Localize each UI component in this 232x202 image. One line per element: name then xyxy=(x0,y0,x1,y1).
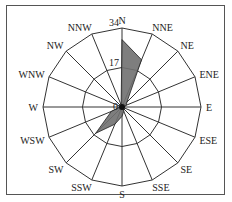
direction-label-sw: SW xyxy=(48,164,64,175)
center-dot xyxy=(119,104,125,110)
direction-label-s: S xyxy=(119,189,125,200)
direction-label-nw: NW xyxy=(47,40,64,51)
direction-label-w: W xyxy=(29,102,39,113)
direction-label-wnw: WNW xyxy=(19,69,46,80)
direction-label-ssw: SSW xyxy=(71,182,92,193)
direction-label-se: SE xyxy=(181,164,193,175)
direction-label-n: N xyxy=(118,15,125,26)
wind-rose-chart: 17340NNNENEENEEESESESSESSSWSWWSWWWNWNWNN… xyxy=(0,0,232,202)
direction-label-e: E xyxy=(206,102,212,113)
grid-spoke xyxy=(122,107,178,163)
direction-label-nnw: NNW xyxy=(68,22,92,33)
radial-tick-label: 17 xyxy=(109,57,119,68)
direction-label-nne: NNE xyxy=(152,22,173,33)
radial-tick-label: 0 xyxy=(113,101,118,112)
direction-label-ne: NE xyxy=(181,40,194,51)
direction-label-sse: SSE xyxy=(152,182,169,193)
direction-label-wsw: WSW xyxy=(20,135,45,146)
direction-label-ene: ENE xyxy=(199,69,218,80)
direction-label-ese: ESE xyxy=(199,135,217,146)
